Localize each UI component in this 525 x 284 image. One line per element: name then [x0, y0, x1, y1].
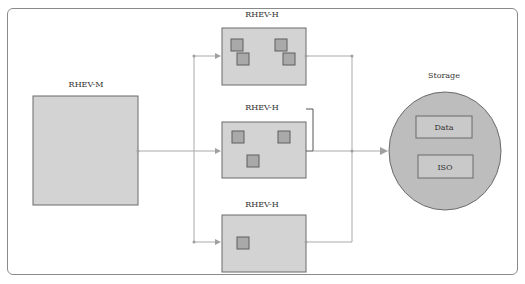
arrow-icon	[215, 148, 221, 154]
port-dot	[137, 150, 140, 153]
host-1-label: RHEV-H	[245, 10, 279, 19]
host-2-bracket	[306, 109, 313, 151]
manager-to-hosts-connectors	[137, 53, 222, 245]
vm-icon[interactable]	[237, 237, 249, 249]
vm-icon[interactable]	[231, 39, 243, 51]
storage-label: Storage	[428, 71, 460, 80]
vm-icon[interactable]	[247, 155, 259, 167]
host-2-node[interactable]	[222, 122, 306, 178]
hosts-to-storage-connectors	[305, 55, 389, 244]
port-dot	[193, 55, 196, 58]
host-2-label: RHEV-H	[245, 103, 279, 112]
host-3-node[interactable]	[222, 215, 306, 272]
vm-icon[interactable]	[275, 39, 287, 51]
manager-node[interactable]	[33, 96, 138, 205]
arrow-icon	[215, 53, 221, 59]
vm-icon[interactable]	[283, 53, 295, 65]
storage-domain-iso-label: ISO	[437, 163, 453, 172]
arrow-icon	[380, 147, 388, 155]
storage-node[interactable]	[389, 92, 501, 210]
storage-domain-data-label: Data	[434, 123, 453, 132]
port-dot	[193, 241, 196, 244]
port-dot	[351, 150, 354, 153]
vm-icon[interactable]	[237, 53, 249, 65]
port-dot	[351, 55, 354, 58]
diagram-canvas: RHEV-M RHEV-H RHEV-H RHEV-H	[0, 0, 525, 284]
arrow-icon	[215, 239, 221, 245]
port-dot	[305, 241, 308, 244]
manager-label: RHEV-M	[69, 80, 104, 89]
host-3-label: RHEV-H	[245, 200, 279, 209]
vm-icon[interactable]	[232, 131, 244, 143]
port-dot	[305, 55, 308, 58]
vm-icon[interactable]	[278, 131, 290, 143]
